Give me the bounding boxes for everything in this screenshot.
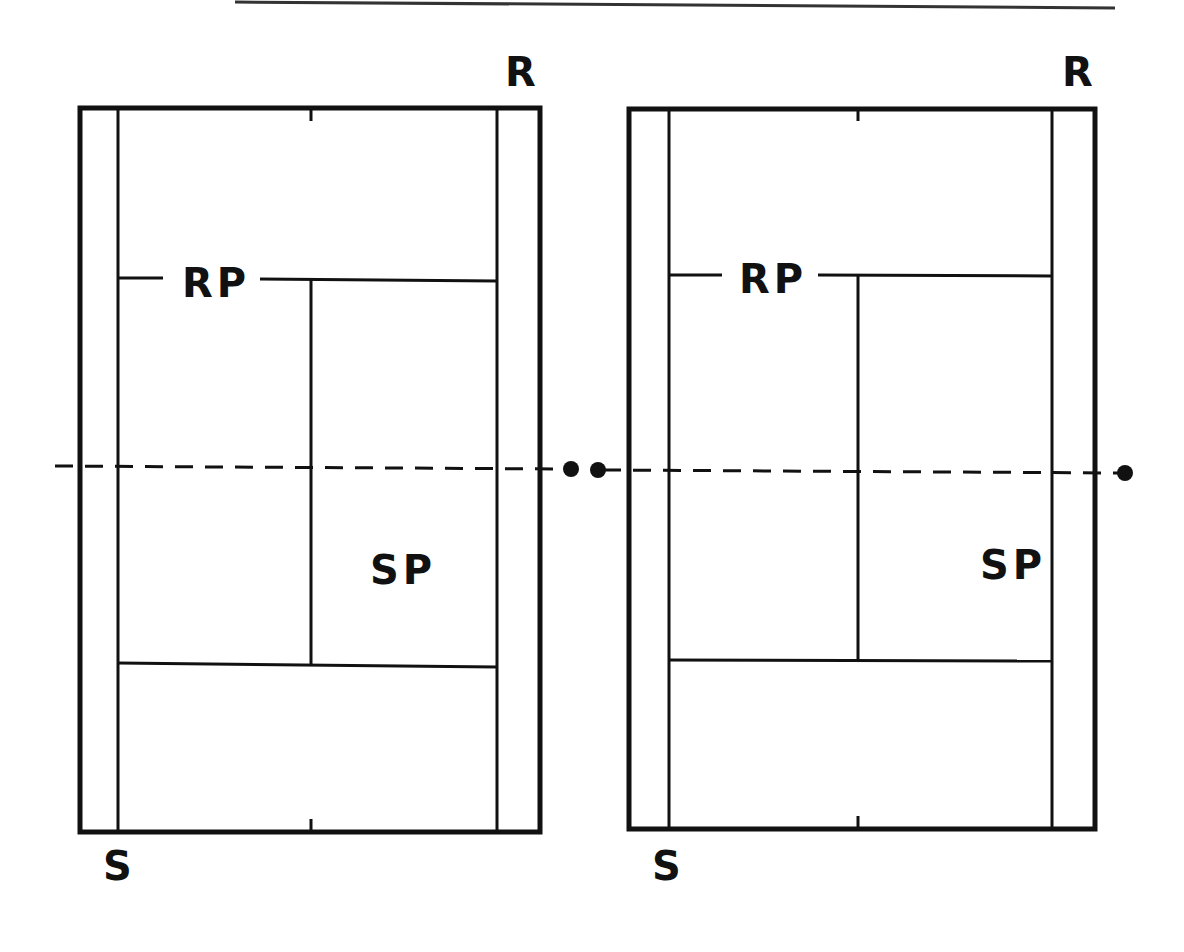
left-court-upper-service-line-b: [260, 279, 497, 281]
left-court-label-r: R: [505, 52, 540, 92]
left-court-label-sp: SP: [370, 550, 436, 590]
right-court-lower-service-line: [669, 660, 1052, 661]
right-court-label-rp: RP: [737, 259, 809, 299]
left-court: [80, 108, 540, 832]
header-rule: [235, 2, 1115, 8]
right-court-outer: [629, 109, 1095, 829]
dashed-line-right: [603, 470, 1122, 473]
right-court-label-s: S: [652, 846, 685, 886]
tennis-diagram: [0, 0, 1184, 952]
dashed-line-left: [55, 466, 565, 469]
right-court: [629, 109, 1095, 829]
right-court-label-r: R: [1062, 52, 1097, 92]
left-court-marker-icon: [563, 461, 579, 477]
left-court-lower-service-line: [118, 663, 497, 667]
right-court-label-sp: SP: [980, 545, 1046, 585]
left-court-label-rp: RP: [180, 263, 252, 303]
left-court-label-s: S: [103, 846, 136, 886]
right-court-marker-left-icon: [590, 462, 606, 478]
right-court-upper-service-line-b: [818, 275, 1052, 276]
right-court-marker-right-icon: [1117, 465, 1133, 481]
